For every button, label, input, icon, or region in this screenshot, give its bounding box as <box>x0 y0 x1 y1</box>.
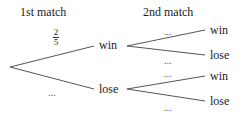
probability-win-win: ... <box>164 28 172 36</box>
node-lose-lose: lose <box>210 95 229 107</box>
probability-first-win: 2 5 <box>52 28 60 47</box>
probability-lose-win: ... <box>164 70 172 78</box>
fraction-numerator: 2 <box>52 28 60 37</box>
probability-lose-lose: ... <box>164 104 172 112</box>
node-win-lose: lose <box>210 49 229 61</box>
branch-win-lose <box>127 46 205 55</box>
probability-first-lose: ... <box>48 89 56 97</box>
node-lose-win: win <box>210 70 228 82</box>
probability-win-lose: ... <box>164 57 172 65</box>
header-2nd-match: 2nd match <box>143 6 193 18</box>
branch-lose-lose <box>127 89 205 101</box>
node-first-lose: lose <box>99 83 118 95</box>
header-1st-match: 1st match <box>20 6 66 18</box>
branch-first-win <box>10 46 94 67</box>
branch-first-lose <box>10 67 94 89</box>
fraction-denominator: 5 <box>52 38 60 47</box>
node-win-win: win <box>210 24 228 36</box>
node-first-win: win <box>99 39 117 51</box>
